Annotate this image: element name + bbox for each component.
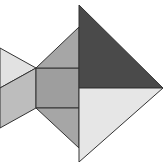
lower-fin-triangle <box>36 108 79 148</box>
head-dark-triangle <box>79 5 163 88</box>
tangram-fish-diagram <box>0 0 168 162</box>
upper-fin-triangle <box>36 27 79 68</box>
head-light-triangle <box>79 88 163 162</box>
body-square <box>36 68 79 108</box>
